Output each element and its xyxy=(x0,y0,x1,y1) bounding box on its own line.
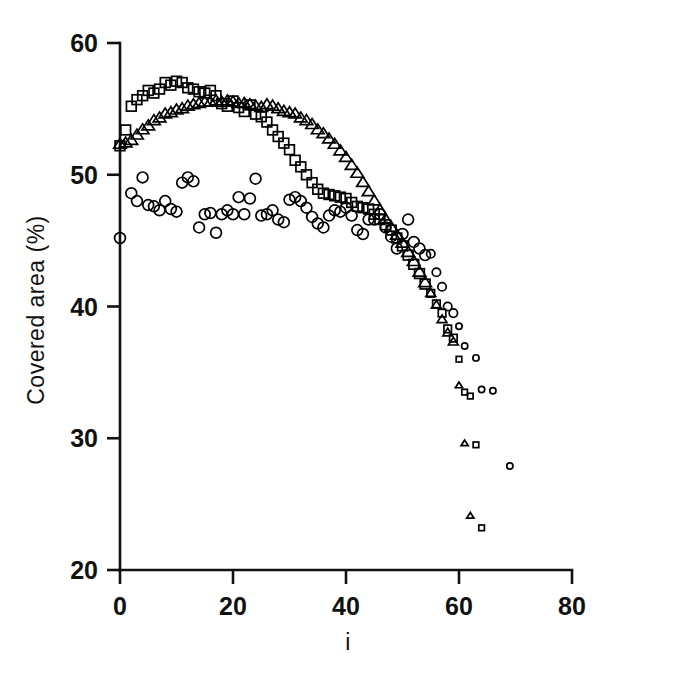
x-axis-title: i xyxy=(345,629,351,655)
plot-canvas: 2030405060 020406080 Covered area (%) i xyxy=(0,0,686,686)
x-tick-label: 0 xyxy=(113,592,127,620)
x-tick-label: 60 xyxy=(445,592,473,620)
y-tick-label: 60 xyxy=(70,29,98,57)
x-tick-label: 20 xyxy=(219,592,247,620)
y-tick-label: 30 xyxy=(70,424,98,452)
x-tick-label: 80 xyxy=(558,592,586,620)
figure-scatter-plot: 2030405060 020406080 Covered area (%) i xyxy=(0,0,686,686)
y-tick-label: 50 xyxy=(70,161,98,189)
x-tick-label: 40 xyxy=(332,592,360,620)
plot-background xyxy=(0,0,686,686)
y-tick-label: 20 xyxy=(70,556,98,584)
y-tick-label: 40 xyxy=(70,293,98,321)
y-axis-title: Covered area (%) xyxy=(23,215,49,405)
